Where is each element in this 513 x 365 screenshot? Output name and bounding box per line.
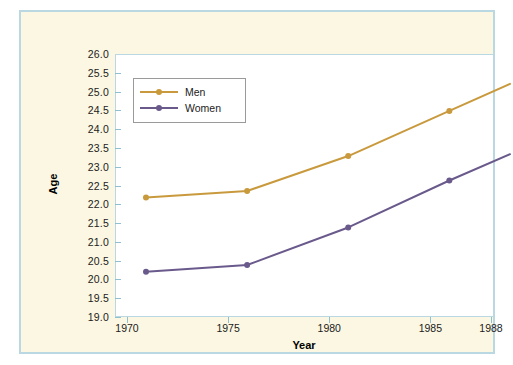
y-axis-tick-mark (115, 261, 121, 262)
y-axis-tick-mark (115, 167, 121, 168)
x-axis-tick-label: 1988 (479, 322, 502, 334)
y-axis-tick-label: 22.0 (63, 198, 109, 210)
y-axis-tick-label: 23.0 (63, 161, 109, 173)
x-axis-tick-mark (329, 317, 330, 323)
y-axis-tick-label: 21.0 (63, 236, 109, 248)
chart-legend[interactable]: Men Women (133, 78, 246, 123)
y-axis-tick-label: 21.5 (63, 217, 109, 229)
x-axis-tick-label: 1985 (419, 322, 442, 334)
y-axis-tick-mark (115, 110, 121, 111)
x-axis-tick-label: 1980 (318, 322, 341, 334)
y-axis-title: Age (47, 174, 59, 195)
y-axis-tick-label: 24.5 (63, 104, 109, 116)
x-axis-title: Year (292, 339, 315, 351)
y-axis-tick-mark (115, 129, 121, 130)
legend-item-women[interactable]: Women (140, 100, 239, 116)
legend-label-women: Women (185, 102, 221, 114)
y-axis-tick-label: 22.5 (63, 180, 109, 192)
y-axis-tick-mark (115, 204, 121, 205)
y-axis-tick-label: 19.0 (63, 311, 109, 323)
y-axis-tick-mark (115, 148, 121, 149)
legend-swatch-men-icon (140, 86, 178, 98)
y-axis-tick-label: 19.5 (63, 292, 109, 304)
x-axis-tick-label: 1975 (216, 322, 239, 334)
y-axis-tick-mark (115, 186, 121, 187)
y-axis-tick-mark (115, 298, 121, 299)
x-axis-tick-mark (491, 317, 492, 323)
x-axis-tick-mark (127, 317, 128, 323)
y-axis-tick-label: 23.5 (63, 142, 109, 154)
y-axis-tick-mark (115, 73, 121, 74)
y-axis-tick-mark (115, 242, 121, 243)
legend-item-men[interactable]: Men (140, 84, 239, 100)
y-axis-tick-mark (115, 92, 121, 93)
legend-label-men: Men (185, 86, 205, 98)
x-axis-tick-mark (430, 317, 431, 323)
y-axis-tick-label: 20.5 (63, 255, 109, 267)
x-axis-tick-label: 1970 (115, 322, 138, 334)
y-axis-tick-mark (115, 279, 121, 280)
y-axis-tick-label: 25.0 (63, 86, 109, 98)
y-axis-tick-label: 20.0 (63, 273, 109, 285)
x-axis-tick-mark (228, 317, 229, 323)
y-axis-tick-mark (115, 223, 121, 224)
legend-swatch-women-icon (140, 102, 178, 114)
y-axis-tick-label: 26.0 (63, 48, 109, 60)
y-axis-tick-label: 25.5 (63, 67, 109, 79)
y-axis-tick-label: 24.0 (63, 123, 109, 135)
chart-panel: Age Year 26.025.525.024.524.023.523.022.… (19, 10, 495, 354)
chart-figure: Age Year 26.025.525.024.524.023.523.022.… (0, 0, 513, 365)
y-axis-tick-mark (115, 317, 121, 318)
